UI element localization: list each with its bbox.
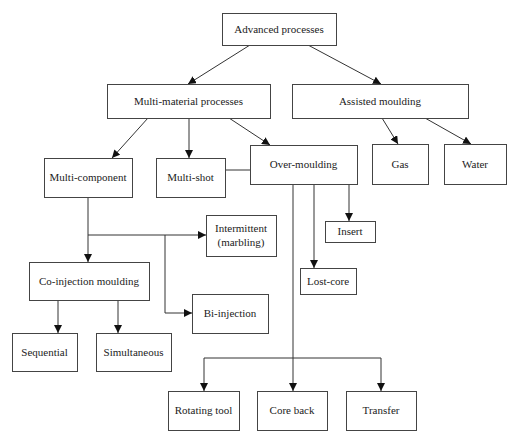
process-tree-diagram: Advanced processesMulti-material process…: [0, 0, 517, 442]
node-label: Insert: [337, 225, 362, 237]
node-label: Core back: [270, 404, 315, 416]
node-label: Over-moulding: [270, 158, 338, 170]
node-rotating-tool: Rotating tool: [169, 392, 240, 431]
node-lost-core: Lost-core: [301, 269, 357, 295]
node-label: Intermittent: [215, 222, 267, 234]
edge-multi_shot-to-transfer: [293, 358, 381, 391]
node-label: Advanced processes: [234, 23, 324, 35]
edge-advanced-to-assisted: [308, 45, 381, 84]
node-multi-shot: Multi-shot: [157, 159, 226, 198]
node-insert: Insert: [326, 222, 376, 243]
node-gas: Gas: [373, 145, 429, 185]
edge-assisted-to-water: [425, 118, 471, 144]
node-label: Gas: [391, 158, 408, 170]
node-simultaneous: Simultaneous: [97, 334, 172, 372]
edge-multi_shot-to-rotating_tool: [204, 358, 293, 391]
node-assisted: Assisted moulding: [293, 85, 469, 119]
node-over-moulding: Over-moulding: [251, 146, 358, 185]
node-multi-component: Multi-component: [45, 159, 133, 198]
node-label: Lost-core: [307, 275, 349, 287]
node-label: Simultaneous: [104, 346, 164, 358]
edge-multi_material-to-over_moulding: [229, 118, 270, 145]
node-label: (marbling): [217, 236, 264, 249]
node-label: Multi-material processes: [134, 95, 243, 107]
edge-assisted-to-gas: [382, 118, 398, 144]
node-label: Multi-shot: [167, 171, 213, 183]
node-label: Multi-component: [50, 171, 127, 183]
node-multi-material: Multi-material processes: [108, 85, 271, 119]
diagram-nodes: Advanced processesMulti-material process…: [13, 14, 507, 431]
node-intermittent: Intermittent(marbling): [207, 216, 277, 257]
node-bi-injection: Bi-injection: [193, 295, 269, 334]
node-water: Water: [445, 145, 507, 185]
node-label: Bi-injection: [204, 307, 257, 319]
edge-advanced-to-multi_material: [188, 45, 250, 84]
node-transfer: Transfer: [347, 392, 417, 431]
node-advanced: Advanced processes: [223, 14, 337, 46]
node-label: Rotating tool: [175, 404, 233, 416]
node-sequential: Sequential: [13, 334, 78, 372]
node-label: Water: [462, 158, 488, 170]
edge-multi_component-to-bi_injection: [165, 235, 192, 313]
node-label: Co-injection moulding: [39, 275, 139, 287]
node-label: Sequential: [21, 346, 67, 358]
node-label: Assisted moulding: [339, 95, 422, 107]
node-co-injection: Co-injection moulding: [30, 263, 150, 301]
node-core-back: Core back: [258, 392, 328, 431]
edge-multi_material-to-multi_component: [112, 118, 148, 158]
node-label: Transfer: [363, 404, 400, 416]
